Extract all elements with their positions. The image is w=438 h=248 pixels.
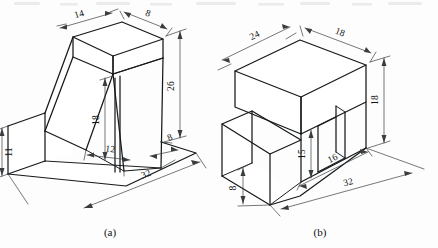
dim-26-label: 26 — [166, 81, 176, 91]
dim-18r-arrow-top — [382, 58, 387, 66]
dim-11-ext-bot — [0, 174, 8, 178]
dim-8bot-arrow-a — [150, 154, 157, 159]
drawing-sheet: 14 8 26 18 — [0, 0, 438, 248]
dim-32a-arrow-b — [191, 160, 200, 165]
dim-26-arrow-top — [178, 31, 183, 39]
dim-8top-ext-1 — [120, 11, 124, 19]
dim-8top-arrow-a — [124, 12, 131, 18]
dim-32a-ext-2 — [196, 153, 206, 168]
dim-14-ext-2 — [110, 9, 118, 12]
dim-14-label: 14 — [73, 8, 85, 20]
dim-15-arrow-bot — [309, 170, 314, 178]
dim-14-line — [60, 13, 112, 28]
dim-32b-label: 32 — [342, 176, 354, 188]
dim-11-ext-top — [0, 126, 8, 130]
dim-8b-label: 8 — [228, 185, 238, 190]
dim-11-arrow-bot — [0, 168, 5, 176]
figure-b-caption: (b) — [314, 226, 327, 239]
dim-18b-ext-1 — [300, 26, 303, 36]
dim-24-ext-1 — [218, 64, 231, 70]
figure-a-caption: (a) — [104, 226, 117, 239]
dim-15-arrow-top — [309, 130, 314, 138]
dim-18b-arrow-b — [364, 47, 371, 53]
dim-32b-ext-2 — [366, 148, 424, 169]
dim-18-label: 18 — [91, 115, 101, 125]
dim-18r-label: 18 — [370, 95, 380, 105]
dim-12-ext-1 — [84, 150, 86, 160]
dim-12-arrow-b — [123, 157, 130, 162]
scan-artifacts — [14, 2, 422, 6]
dim-18r-arrow-bot — [382, 135, 387, 143]
dim-8top-label: 8 — [144, 8, 152, 19]
dim-8top-arrow-b — [160, 23, 167, 29]
dim-18b-label: 18 — [334, 26, 347, 39]
figure-a-body — [8, 22, 196, 186]
dim-8b-arrow-bot — [241, 196, 246, 204]
dim-24-label: 24 — [248, 29, 261, 42]
dim-32a-ext-1 — [8, 174, 28, 204]
dim-24-arrow-b — [282, 24, 290, 29]
dim-16-arrow-a — [299, 184, 307, 189]
dim-24-arrow-a — [222, 58, 230, 63]
dim-32b-arrow-b — [404, 171, 412, 176]
dim-11-arrow-top — [0, 128, 5, 136]
rib-right-slope-outer — [161, 58, 163, 168]
dim-32b-arrow-a — [281, 205, 289, 210]
dim-18r-ext-bot — [368, 141, 390, 148]
dim-12-arrow-a — [87, 153, 94, 158]
dim-32a-arrow-a — [84, 203, 93, 208]
dim-15-label: 15 — [297, 149, 307, 159]
dim-11-label: 11 — [4, 147, 14, 157]
dim-18b-arrow-a — [305, 28, 312, 34]
dim-12-label: 12 — [105, 143, 116, 154]
dim-24-ext-2 — [286, 33, 296, 39]
figure-a-drawing: 14 8 26 18 — [0, 0, 438, 248]
